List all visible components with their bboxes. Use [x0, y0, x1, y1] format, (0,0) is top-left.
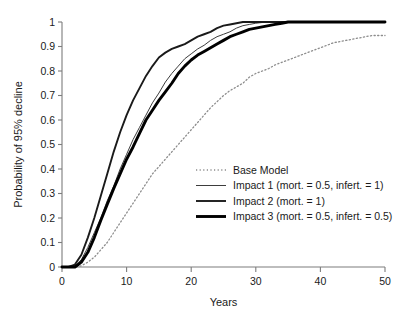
y-tick-label: 0.6 [40, 114, 55, 126]
x-tick-label: 0 [59, 275, 65, 287]
legend-label: Impact 2 (mort. = 1) [233, 195, 325, 207]
legend-label: Impact 1 (mort. = 0.5, infert. = 1) [233, 179, 384, 191]
series-line [62, 22, 385, 267]
figure-container: 00.10.20.30.40.50.60.70.80.9101020304050… [0, 0, 406, 315]
y-tick-label: 0.5 [40, 138, 55, 150]
x-tick-label: 30 [250, 275, 262, 287]
y-tick-label: 0.3 [40, 187, 55, 199]
y-tick-label: 0.1 [40, 236, 55, 248]
axis-spines [62, 22, 385, 267]
y-axis-title: Probability of 95% decline [12, 81, 24, 208]
x-axis-title: Years [210, 296, 238, 308]
y-tick-label: 0.2 [40, 212, 55, 224]
y-tick-label: 0.9 [40, 40, 55, 52]
line-chart: 00.10.20.30.40.50.60.70.80.9101020304050… [0, 0, 406, 315]
chart-legend: Base ModelImpact 1 (mort. = 0.5, infert.… [196, 164, 392, 223]
y-tick-label: 0.4 [40, 163, 55, 175]
y-tick-label: 0.8 [40, 65, 55, 77]
series-layer [62, 22, 385, 267]
series-line [62, 35, 385, 267]
series-line [62, 22, 385, 267]
axis-layer [58, 22, 385, 272]
legend-label: Base Model [233, 164, 288, 176]
series-line [62, 22, 385, 267]
x-tick-label: 20 [185, 275, 197, 287]
y-tick-label: 0.7 [40, 89, 55, 101]
y-tick-label: 1 [49, 16, 55, 28]
legend-label: Impact 3 (mort. = 0.5, infert. = 0.5) [233, 210, 392, 222]
x-tick-label: 50 [379, 275, 391, 287]
x-tick-label: 10 [121, 275, 133, 287]
y-tick-label: 0 [49, 261, 55, 273]
label-layer: 00.10.20.30.40.50.60.70.80.9101020304050… [12, 16, 391, 308]
x-tick-label: 40 [315, 275, 327, 287]
